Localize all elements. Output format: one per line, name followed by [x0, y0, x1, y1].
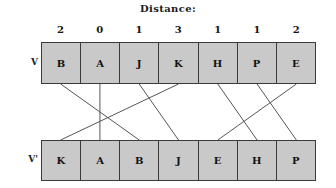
- edge-line-p: [257, 84, 296, 140]
- distance-value: 2: [41, 22, 80, 37]
- distance-value: 2: [277, 22, 316, 37]
- distance-value: 3: [159, 22, 198, 37]
- sequence-cell-v: E: [277, 43, 315, 83]
- sequence-cell-v: A: [81, 43, 120, 83]
- edge-line-j: [139, 84, 178, 140]
- sequence-cell-v: H: [199, 43, 238, 83]
- permutation-distance-diagram: Distance: 2013112 V V' BAJKHPE KABJEHP: [0, 0, 336, 188]
- sequence-row-v: BAJKHPE: [41, 42, 316, 84]
- edge-line-h: [218, 84, 257, 140]
- row-label-v-prime: V': [10, 154, 38, 164]
- distance-value: 1: [120, 22, 159, 37]
- figure-title: Distance:: [0, 3, 336, 14]
- sequence-cell-v-prime: A: [81, 141, 120, 180]
- row-label-v: V: [12, 57, 38, 67]
- sequence-cell-v-prime: B: [120, 141, 159, 180]
- edge-line-k: [61, 84, 179, 140]
- edge-line-b: [61, 84, 140, 140]
- sequence-cell-v-prime: E: [199, 141, 238, 180]
- sequence-cell-v: J: [120, 43, 159, 83]
- distance-value: 0: [80, 22, 119, 37]
- sequence-row-v-prime: KABJEHP: [41, 140, 316, 181]
- sequence-cell-v: P: [238, 43, 277, 83]
- sequence-cell-v-prime: J: [159, 141, 198, 180]
- distance-value: 1: [198, 22, 237, 37]
- sequence-cell-v: K: [159, 43, 198, 83]
- sequence-cell-v-prime: H: [238, 141, 277, 180]
- edge-line-e: [218, 84, 297, 140]
- sequence-cell-v-prime: P: [277, 141, 315, 180]
- sequence-cell-v-prime: K: [42, 141, 81, 180]
- distance-values-row: 2013112: [41, 22, 316, 37]
- distance-value: 1: [237, 22, 276, 37]
- sequence-cell-v: B: [42, 43, 81, 83]
